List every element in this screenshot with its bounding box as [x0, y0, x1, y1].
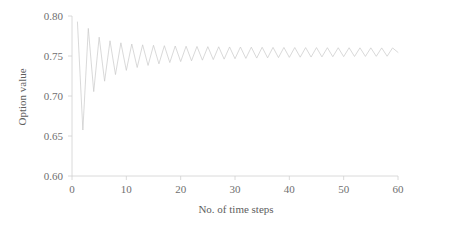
- x-tick-label: 60: [393, 183, 405, 195]
- x-tick-label: 20: [175, 183, 187, 195]
- y-tick-label: 0.65: [44, 130, 64, 142]
- y-axis-title: Option value: [16, 68, 28, 125]
- y-tick-label: 0.75: [44, 50, 64, 62]
- x-tick-label: 10: [121, 183, 133, 195]
- x-tick-label: 30: [230, 183, 242, 195]
- x-tick-label: 40: [284, 183, 296, 195]
- y-tick-label: 0.80: [44, 10, 64, 22]
- x-axis-title: No. of time steps: [198, 203, 273, 215]
- x-tick-label: 50: [338, 183, 350, 195]
- y-tick-label: 0.60: [44, 170, 64, 182]
- x-tick-label: 0: [69, 183, 75, 195]
- option-value-convergence-chart: 0.600.650.700.750.80 0102030405060 No. o…: [0, 0, 450, 231]
- y-tick-label: 0.70: [44, 90, 64, 102]
- chart-figure: 0.600.650.700.750.80 0102030405060 No. o…: [0, 0, 450, 231]
- plot-background: [0, 0, 450, 231]
